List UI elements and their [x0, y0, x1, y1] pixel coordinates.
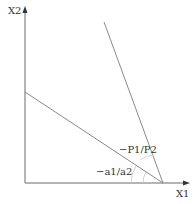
- y-axis-label: X2: [8, 5, 21, 16]
- constraint-slope-label: −a1/a2: [96, 166, 132, 177]
- x-axis-label: X1: [176, 188, 189, 199]
- price-slope-label: −P1/P2: [119, 144, 157, 155]
- x-axis: [25, 181, 190, 186]
- price-line: [104, 22, 163, 183]
- angle-arc-inner: [143, 172, 146, 183]
- y-axis: [23, 6, 28, 183]
- constraint-line: [25, 92, 163, 183]
- diagram-canvas: X2 X1 −P1/P2 −a1/a2: [0, 0, 195, 204]
- y-axis-arrow-icon: [23, 6, 28, 13]
- x-axis-arrow-icon: [183, 181, 190, 186]
- angle-arc-top: [140, 155, 153, 160]
